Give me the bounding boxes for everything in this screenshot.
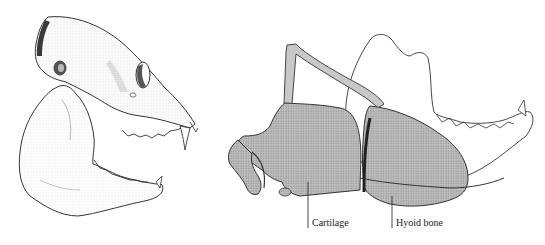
label-hyoid-bone: Hyoid bone [396,217,443,228]
hyoid-apparatus-illustration [215,0,545,245]
label-cartilage: Cartilage [312,217,349,228]
skull-illustration [0,0,210,245]
